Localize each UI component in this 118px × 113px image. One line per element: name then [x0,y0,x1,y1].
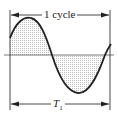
left-arrow-icon [11,13,19,18]
period-subscript: 1 [59,104,63,112]
left-arrow-icon [11,102,19,107]
right-arrow-icon [101,13,109,18]
period-label: T1 [51,98,65,113]
cycle-label: 1 cycle [42,9,77,20]
right-arrow-icon [101,102,109,107]
